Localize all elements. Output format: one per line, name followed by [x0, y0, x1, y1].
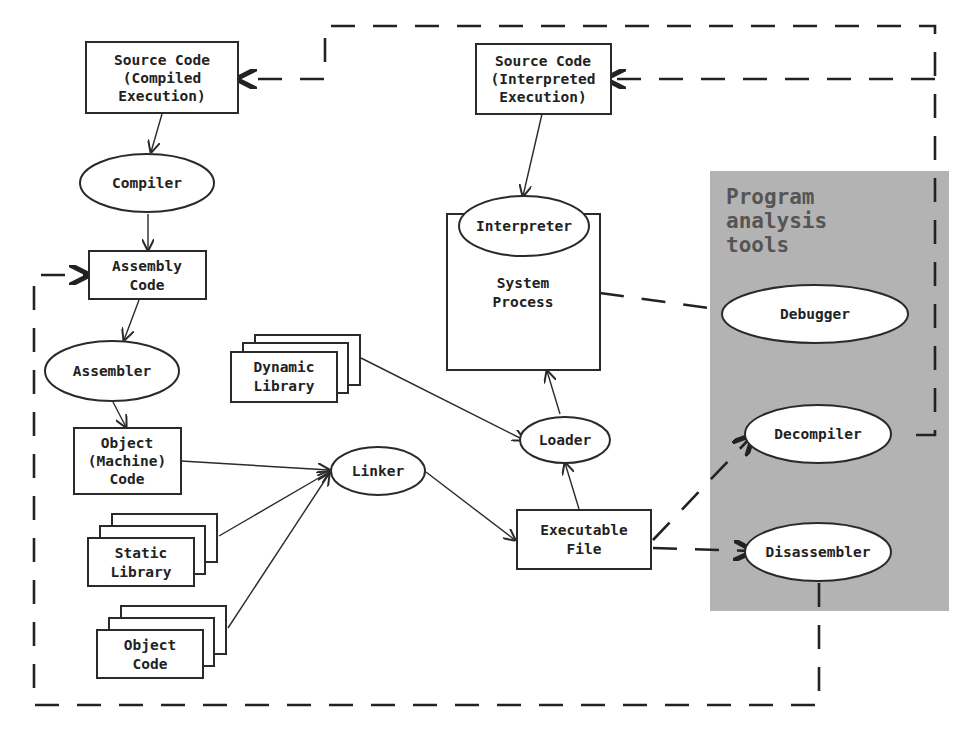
node-linker[interactable]: Linker	[331, 447, 425, 495]
node-label: Linker	[352, 463, 405, 479]
node-label: (Compiled	[123, 70, 202, 86]
node-label: Code	[130, 277, 165, 293]
node-source-code-interpreted[interactable]: Source Code (Interpreted Execution)	[476, 44, 611, 114]
node-label: Assembler	[73, 363, 152, 379]
node-executable-file[interactable]: Executable File	[517, 510, 651, 569]
node-label: Interpreter	[476, 218, 572, 234]
node-compiler[interactable]: Compiler	[80, 154, 214, 212]
node-assembly-code[interactable]: Assembly Code	[89, 251, 206, 299]
node-debugger[interactable]: Debugger	[722, 285, 908, 343]
node-loader[interactable]: Loader	[520, 417, 610, 463]
panel-title-line-2: analysis	[726, 209, 827, 233]
node-label: Static	[115, 545, 167, 561]
node-label: Object	[124, 637, 176, 653]
node-label: Loader	[539, 432, 592, 448]
node-label: Code	[110, 471, 145, 487]
node-label: (Machine)	[88, 453, 167, 469]
panel-title-line-1: Program	[726, 185, 815, 209]
node-label: Object	[101, 435, 153, 451]
node-label: Executable	[540, 522, 628, 538]
node-label: File	[567, 541, 602, 557]
node-source-code-compiled[interactable]: Source Code (Compiled Execution)	[86, 42, 238, 113]
node-label: Library	[253, 378, 314, 394]
node-label: Assembly	[112, 258, 182, 274]
node-label: Process	[492, 294, 553, 310]
node-label: (Interpreted	[491, 71, 596, 87]
node-label: Dynamic	[253, 359, 314, 375]
node-static-library[interactable]: Static Library	[88, 514, 217, 586]
node-object-machine-code[interactable]: Object (Machine) Code	[74, 428, 181, 494]
node-label: Execution)	[499, 89, 586, 105]
node-object-code[interactable]: Object Code	[97, 606, 226, 678]
node-label: Decompiler	[774, 426, 862, 442]
compilation-diagram: Program analysis tools Source Code (Comp…	[0, 0, 962, 731]
panel-title-line-3: tools	[726, 233, 789, 257]
node-label: Source Code	[495, 53, 591, 69]
node-label: System	[497, 275, 550, 291]
node-assembler[interactable]: Assembler	[45, 341, 179, 401]
node-label: Debugger	[780, 306, 850, 322]
node-dynamic-library[interactable]: Dynamic Library	[231, 335, 360, 402]
node-label: Source Code	[114, 52, 210, 68]
node-label: Compiler	[112, 175, 182, 191]
node-interpreter[interactable]: Interpreter	[459, 196, 589, 256]
node-label: Disassembler	[766, 544, 871, 560]
node-label: Library	[110, 564, 171, 580]
node-decompiler[interactable]: Decompiler	[745, 405, 891, 463]
node-disassembler[interactable]: Disassembler	[745, 523, 891, 581]
node-label: Execution)	[118, 88, 205, 104]
node-label: Code	[133, 656, 168, 672]
